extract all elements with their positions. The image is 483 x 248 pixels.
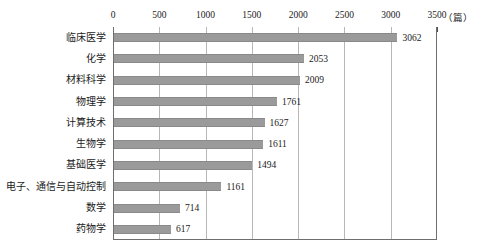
bar-value-label: 1494 [257, 160, 276, 170]
bar-row: 1761 [114, 91, 436, 112]
bar-row: 1494 [114, 155, 436, 176]
category-label: 基础医学 [66, 155, 106, 176]
bar-row: 617 [114, 219, 436, 240]
bar [114, 54, 304, 63]
x-tick-label: 0 [111, 10, 116, 21]
bar [114, 97, 277, 106]
category-axis-labels: 临床医学化学材料科学物理学计算技术生物学基础医学电子、通信与自动控制数学药物学 [0, 27, 110, 240]
bar-row: 714 [114, 197, 436, 218]
x-tick-label: 1000 [196, 10, 215, 21]
plot-area: 30622053200917611627161114941161714617 [113, 27, 437, 240]
bar [114, 76, 300, 85]
x-tick-label: 3000 [381, 10, 400, 21]
bar [114, 225, 171, 234]
x-tick-label: 2500 [335, 10, 354, 21]
bar [114, 33, 397, 42]
category-label: 生物学 [76, 134, 106, 155]
bar-value-label: 1161 [226, 182, 245, 192]
category-label: 化学 [86, 48, 106, 69]
category-label: 临床医学 [66, 27, 106, 48]
bar-row: 2053 [114, 48, 436, 69]
x-tick-label: 2000 [289, 10, 308, 21]
bar [114, 204, 180, 213]
bar-row: 1611 [114, 134, 436, 155]
x-tick-mark [437, 27, 438, 32]
category-label: 电子、通信与自动控制 [6, 176, 106, 197]
bar [114, 182, 221, 191]
bar-row: 2009 [114, 70, 436, 91]
x-tick-label: 500 [152, 10, 166, 21]
bar [114, 140, 263, 149]
category-label: 数学 [86, 197, 106, 218]
bar-row: 1627 [114, 112, 436, 133]
bar-row: 3062 [114, 27, 436, 48]
bar-row: 1161 [114, 176, 436, 197]
bar-value-label: 1627 [270, 118, 289, 128]
bar-value-label: 714 [185, 203, 199, 213]
category-label: 计算技术 [66, 112, 106, 133]
category-label: 材料科学 [66, 70, 106, 91]
bar [114, 161, 252, 170]
bar-value-label: 1611 [268, 139, 287, 149]
bar [114, 118, 265, 127]
bar-rows: 30622053200917611627161114941161714617 [114, 27, 436, 239]
bar-value-label: 3062 [402, 33, 421, 43]
category-label: 药物学 [76, 219, 106, 240]
bar-value-label: 617 [176, 224, 190, 234]
x-tick-label: 1500 [242, 10, 261, 21]
axis-unit-label: （篇） [443, 10, 473, 24]
x-tick-label: 3500 [428, 10, 447, 21]
bar-value-label: 2053 [309, 54, 328, 64]
bar-value-label: 2009 [305, 75, 324, 85]
bar-value-label: 1761 [282, 97, 301, 107]
category-label: 物理学 [76, 91, 106, 112]
bar-chart: （篇） 0500100015002000250030003500 3062205… [0, 0, 483, 248]
